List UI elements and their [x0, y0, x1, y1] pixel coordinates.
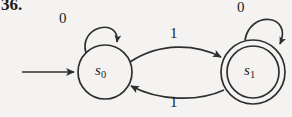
state-label-s0: s0: [95, 62, 106, 80]
state-label-s1-text: s: [244, 62, 250, 78]
state-label-s1: s1: [244, 62, 255, 80]
edge-label-s1-to-s0: 1: [170, 94, 178, 111]
edge-label-s0-to-s1: 1: [170, 25, 178, 42]
transition-s0-to-s1: [130, 47, 221, 62]
state-label-s1-subscript: 1: [250, 69, 255, 80]
automaton-canvas: [0, 0, 292, 117]
transition-s1-to-s0: [131, 86, 224, 98]
state-label-s0-subscript: 0: [101, 69, 106, 80]
automaton-figure: 36. s0 s1 0 1 1 0: [0, 0, 292, 117]
edge-label-s1-self-loop: 0: [237, 0, 245, 16]
edge-label-s0-self-loop: 0: [59, 10, 67, 27]
state-label-s0-text: s: [95, 62, 101, 78]
